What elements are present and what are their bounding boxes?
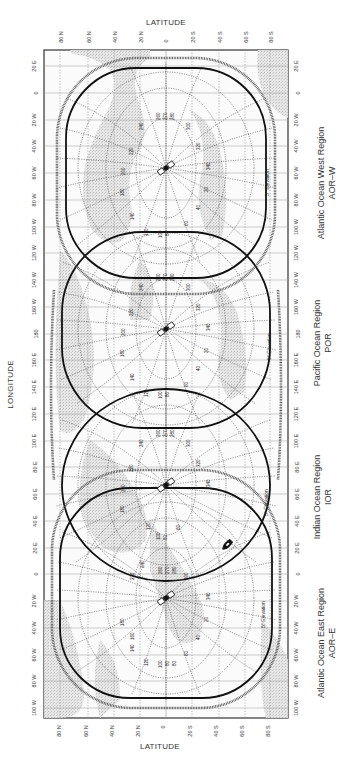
svg-text:240: 240 <box>139 122 144 130</box>
svg-text:300: 300 <box>186 439 191 447</box>
lon-tick: 120 W <box>293 245 299 261</box>
lon-tick: 40 W <box>31 622 37 635</box>
lon-tick: 60 E <box>294 488 300 499</box>
svg-text:120: 120 <box>146 522 151 530</box>
lon-tick: 80 W <box>293 194 299 207</box>
lon-tick: 160 W <box>31 299 37 315</box>
lon-tick: 0 <box>33 91 39 94</box>
lon-tick: 100 E <box>293 434 299 448</box>
svg-text:80: 80 <box>165 391 170 397</box>
svg-text:260: 260 <box>156 273 161 281</box>
lon-tick: 0 <box>33 572 39 575</box>
ior-elevation-label: 5° Elevation <box>263 489 269 516</box>
svg-text:20: 20 <box>204 616 209 622</box>
svg-text:270: 270 <box>163 429 168 437</box>
lon-tick: 100 W <box>293 700 299 716</box>
lon-tick: 180 <box>33 329 39 338</box>
svg-text:60: 60 <box>176 524 181 530</box>
svg-text:260: 260 <box>156 429 161 437</box>
svg-text:100: 100 <box>156 532 161 540</box>
region-code: IOR <box>323 442 334 552</box>
svg-text:300: 300 <box>186 122 191 130</box>
lat-tick: 80 S <box>268 31 274 42</box>
por-elevation-label: 5° Elevation <box>266 333 272 360</box>
svg-text:220: 220 <box>129 464 134 472</box>
svg-text:80: 80 <box>165 230 170 236</box>
lon-tick: 100 W <box>293 219 299 235</box>
svg-text:320: 320 <box>196 303 201 311</box>
lat-tick: 60 N <box>86 31 92 43</box>
lon-tick: 60 W <box>293 649 299 662</box>
svg-text:100: 100 <box>158 391 163 399</box>
lat-tick: 40 N <box>112 31 118 43</box>
svg-text:320: 320 <box>196 459 201 467</box>
lon-tick: 80 W <box>293 675 299 688</box>
region-name: Atlantic Ocean East Region <box>316 578 327 708</box>
lon-tick: 20 E <box>294 542 300 553</box>
region-label-aor-e: Atlantic Ocean East Region AOR–E <box>316 578 338 708</box>
svg-text:140: 140 <box>130 644 135 652</box>
aor-e-elevation-label: 5° Elevation <box>260 601 266 628</box>
region-name: Pacific Ocean Region <box>312 288 323 398</box>
lon-tick: 40 E <box>294 515 300 526</box>
svg-text:180: 180 <box>120 188 125 196</box>
svg-text:80: 80 <box>163 534 168 540</box>
region-label-por: Pacific Ocean Region POR <box>312 288 334 398</box>
lon-tick: 80 E <box>294 461 300 472</box>
svg-text:120: 120 <box>144 658 149 666</box>
region-code: AOR–W <box>327 118 338 248</box>
lon-tick: 160 W <box>293 299 299 315</box>
lon-tick: 40 W <box>31 140 37 153</box>
lon-tick: 20 E <box>293 60 299 71</box>
lon-tick: 40 W <box>293 622 299 635</box>
lon-tick: 100 W <box>31 700 37 716</box>
svg-text:120: 120 <box>144 389 149 397</box>
lon-tick: 160 E <box>293 353 299 367</box>
region-label-aor-w: Atlantic Ocean West Region AOR–W <box>316 118 338 248</box>
region-name: Atlantic Ocean West Region <box>316 118 327 248</box>
svg-text:40: 40 <box>196 204 201 210</box>
svg-text:320: 320 <box>196 142 201 150</box>
aor-w-elevation-label: 5° Elevation <box>264 169 270 196</box>
svg-text:300: 300 <box>184 572 189 580</box>
svg-text:260: 260 <box>156 112 161 120</box>
svg-text:270: 270 <box>163 273 168 281</box>
region-label-ior: Indian Ocean Region IOR <box>312 442 334 552</box>
svg-text:120: 120 <box>144 228 149 236</box>
lon-tick: 20 W <box>31 114 37 127</box>
lat-tick: 0 <box>163 39 169 42</box>
lat-tick: 60 S <box>239 725 245 736</box>
svg-text:180: 180 <box>120 505 125 513</box>
lat-tick: 20 S <box>190 31 196 42</box>
lon-tick: 60 W <box>31 167 37 180</box>
svg-text:270: 270 <box>163 112 168 120</box>
svg-text:180: 180 <box>120 349 125 357</box>
lat-tick: 40 S <box>217 31 223 42</box>
lon-tick: 140 W <box>31 272 37 288</box>
lon-tick: 20 W <box>31 595 37 608</box>
lon-tick: 100 W <box>31 219 37 235</box>
svg-text:340: 340 <box>206 323 211 331</box>
lon-tick: 120 E <box>293 407 299 421</box>
lon-tick: 60 E <box>32 488 38 499</box>
svg-text:20: 20 <box>204 186 209 192</box>
svg-text:220: 220 <box>130 572 135 580</box>
svg-text:270: 270 <box>165 566 170 574</box>
lat-tick: 40 N <box>109 725 115 737</box>
lat-tick: 20 N <box>138 31 144 43</box>
lat-tick: 20 S <box>187 725 193 736</box>
svg-text:340: 340 <box>206 592 211 600</box>
svg-text:40: 40 <box>196 365 201 371</box>
svg-text:280: 280 <box>170 112 175 120</box>
svg-text:220: 220 <box>129 147 134 155</box>
region-code: AOR–E <box>327 578 338 708</box>
svg-text:80: 80 <box>172 660 177 666</box>
svg-text:100: 100 <box>158 660 163 668</box>
svg-text:60: 60 <box>184 220 189 226</box>
region-name: Indian Ocean Region <box>312 442 323 552</box>
lon-tick: 140 E <box>31 380 37 394</box>
lon-tick: 20 E <box>32 542 38 553</box>
lon-tick: 40 W <box>293 140 299 153</box>
lon-tick: 40 E <box>32 515 38 526</box>
lon-tick: 0 <box>295 91 301 94</box>
